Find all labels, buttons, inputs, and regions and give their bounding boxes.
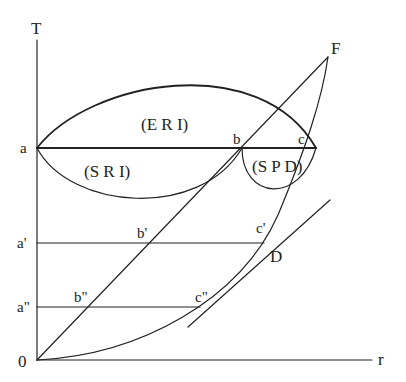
point-c-label: c xyxy=(298,131,305,147)
point-b-label: b xyxy=(233,131,241,147)
point-f-label: F xyxy=(331,39,340,58)
point-b1-label: b' xyxy=(137,225,148,241)
region-spd-label: (S P D) xyxy=(252,157,302,176)
line-0-f xyxy=(37,57,328,360)
region-eri-label: (E R I) xyxy=(141,115,188,134)
t-axis-label: T xyxy=(31,19,42,38)
point-c2-label: c" xyxy=(195,289,208,305)
region-sri-label: (S R I) xyxy=(84,162,130,181)
point-a-label: a xyxy=(20,140,27,156)
point-b2-label: b" xyxy=(74,289,88,305)
point-d-label: D xyxy=(270,247,282,266)
phase-diagram: T r 0 a b c a' b' c' a" b" c" F D (E R I… xyxy=(0,0,406,382)
point-a1-label: a' xyxy=(17,235,27,251)
origin-label: 0 xyxy=(18,352,27,371)
point-c1-label: c' xyxy=(256,220,266,236)
point-a2-label: a" xyxy=(17,299,30,315)
r-axis-label: r xyxy=(378,350,384,369)
sri-lower-arc xyxy=(37,148,242,198)
